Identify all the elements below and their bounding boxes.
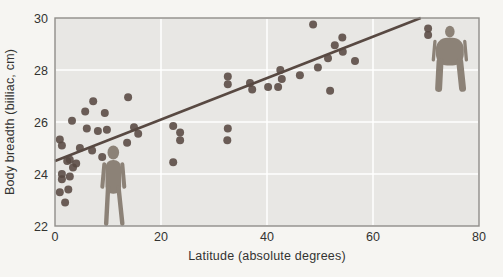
data-point: [331, 41, 339, 49]
x-tick-label: 20: [154, 230, 168, 244]
data-point: [64, 186, 72, 194]
data-point: [176, 128, 184, 136]
x-tick-label: 0: [52, 230, 59, 244]
data-point: [276, 66, 284, 74]
data-point: [314, 63, 322, 71]
data-point: [58, 141, 66, 149]
data-point: [338, 34, 346, 42]
data-point: [66, 173, 74, 181]
data-point: [58, 175, 66, 183]
data-point: [61, 199, 69, 207]
x-tick-label: 40: [260, 230, 274, 244]
data-point: [309, 21, 317, 29]
data-point: [223, 136, 231, 144]
data-point: [76, 144, 84, 152]
data-point: [68, 117, 76, 125]
data-point: [264, 83, 272, 91]
x-tick-label: 80: [472, 230, 486, 244]
data-point: [83, 125, 91, 133]
silhouette-head: [445, 26, 455, 38]
y-tick-label: 24: [34, 168, 48, 182]
y-tick-label: 28: [34, 64, 48, 78]
data-point: [89, 97, 97, 105]
scatter-chart: 0204060802224262830Latitude (absolute de…: [0, 0, 503, 277]
data-point: [296, 71, 304, 79]
data-point: [98, 153, 106, 161]
data-point: [248, 86, 256, 94]
y-tick-labels: 2224262830: [34, 12, 48, 234]
data-point: [69, 164, 77, 172]
y-tick-label: 30: [34, 12, 48, 26]
data-point: [123, 139, 131, 147]
data-point: [134, 130, 142, 138]
data-point: [224, 125, 232, 133]
data-point: [94, 127, 102, 135]
data-point: [274, 83, 282, 91]
data-point: [81, 108, 89, 116]
data-point: [103, 126, 111, 134]
data-point: [339, 48, 347, 56]
x-tick-labels: 020406080: [52, 230, 486, 244]
data-point: [101, 109, 109, 117]
data-point: [169, 158, 177, 166]
data-point: [224, 80, 232, 88]
data-point: [124, 93, 132, 101]
data-point: [63, 157, 71, 165]
data-point: [88, 147, 96, 155]
data-point: [326, 87, 334, 95]
silhouette-head: [107, 145, 119, 159]
y-tick-label: 26: [34, 116, 48, 130]
data-point: [169, 122, 177, 130]
data-point: [278, 75, 286, 83]
y-axis-title: Body breadth (biiliac, cm): [3, 49, 17, 195]
x-tick-label: 60: [366, 230, 380, 244]
data-point: [56, 188, 64, 196]
data-point: [324, 54, 332, 62]
data-point: [176, 136, 184, 144]
data-point: [351, 57, 359, 65]
x-axis-title: Latitude (absolute degrees): [188, 249, 346, 263]
body-breadth-latitude-figure: 0204060802224262830Latitude (absolute de…: [0, 0, 503, 277]
y-tick-label: 22: [34, 220, 48, 234]
data-point: [224, 73, 232, 81]
data-point: [424, 31, 432, 39]
